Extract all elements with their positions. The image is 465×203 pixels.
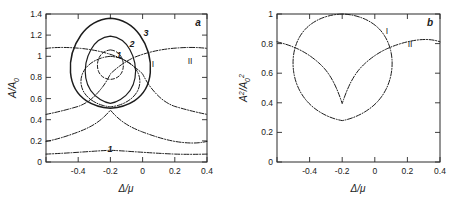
panel-b-xtick-1: -0.2 [335,166,350,176]
panel-a-curve-loop2 [85,36,135,103]
svg-text:A2/A02: A2/A02 [238,74,251,103]
panel-a-x-ticks [46,14,207,162]
panel-b-ylabel-sub: 0 [244,78,251,82]
panel-a-label-branch-I: I [152,59,154,69]
panel-a-svg: 0 0.2 0.4 0.6 0.8 1 1.2 1.4 -0.4 -0.2 0 … [0,0,232,203]
panel-b-y-tick-labels: 0 0.2 0.4 0.6 0.8 1 [261,9,273,167]
panel-a-letter: a [195,17,201,28]
panel-b-axes-frame [277,14,440,162]
panel-a-ytick-0: 0 [37,157,42,167]
panel-a-x-tick-labels: -0.4 -0.2 0 0.2 0.4 [71,166,213,176]
panel-a-xtick-1: -0.2 [103,166,118,176]
panel-a: 0 0.2 0.4 0.6 0.8 1 1.2 1.4 -0.4 -0.2 0 … [0,0,232,203]
panel-a-x-axis-title: Δ/μ [118,183,134,194]
panel-b-letter: b [427,17,433,28]
panel-a-y-axis-title: A/A0 [7,78,20,99]
panel-a-xtick-4: 0.4 [201,166,213,176]
panel-a-xtick-2: 0 [140,166,145,176]
panel-b-svg: 0 0.2 0.4 0.6 0.8 1 -0.4 -0.2 0 0.2 0.4 … [232,0,465,203]
panel-a-y-ticks [46,14,207,162]
panel-b-ytick-3: 0.6 [261,68,273,78]
panel-a-ytick-1: 0.2 [30,136,42,146]
figure-container: 0 0.2 0.4 0.6 0.8 1 1.2 1.4 -0.4 -0.2 0 … [0,0,465,203]
svg-text:A/A0: A/A0 [7,78,20,99]
panel-a-ylabel-sub: 0 [13,78,20,82]
panel-b: 0 0.2 0.4 0.6 0.8 1 -0.4 -0.2 0 0.2 0.4 … [232,0,465,203]
panel-b-label-II: II [408,39,413,49]
panel-a-xtick-3: 0.2 [169,166,181,176]
panel-b-ytick-1: 0.2 [261,127,273,137]
panel-b-y-axis-title: A2/A02 [238,74,251,103]
panel-a-ytick-7: 1.4 [30,9,42,19]
panel-b-ylabel-den-sup: 2 [238,74,245,79]
panel-b-label-I: I [386,26,388,36]
panel-a-ytick-6: 1.2 [30,30,42,40]
panel-b-xtick-0: -0.4 [302,166,317,176]
panel-a-curve-lower-arch [46,110,207,143]
panel-b-x-axis-title: Δ/μ [350,183,366,194]
panel-b-curve-I [293,14,392,121]
panel-a-axes-frame [46,14,207,162]
panel-b-xtick-4: 0.4 [434,166,446,176]
panel-b-x-tick-labels: -0.4 -0.2 0 0.2 0.4 [302,166,446,176]
panel-b-x-ticks [277,14,440,162]
panel-a-xtick-0: -0.4 [71,166,86,176]
panel-a-curve-loop3 [70,18,150,108]
panel-b-ytick-5: 1 [268,9,273,19]
panel-b-ytick-2: 0.4 [261,98,273,108]
panel-b-xtick-3: 0.2 [401,166,413,176]
panel-a-ytick-2: 0.4 [30,115,42,125]
panel-a-label-flat1: 1 [107,144,112,154]
panel-a-ytick-3: 0.6 [30,94,42,104]
panel-a-ytick-4: 0.8 [30,72,42,82]
panel-a-label-loop1: 1 [116,50,121,60]
panel-b-ytick-0: 0 [268,157,273,167]
panel-b-y-ticks [277,14,440,162]
panel-a-label-branch-II: II [188,56,193,66]
panel-a-ytick-5: 1 [37,51,42,61]
panel-b-ytick-4: 0.8 [261,39,273,49]
panel-a-label-loop3: 3 [143,28,148,38]
panel-a-curve-flat1 [46,150,207,154]
panel-b-xtick-2: 0 [372,166,377,176]
panel-a-label-loop2: 2 [128,39,134,49]
panel-a-y-tick-labels: 0 0.2 0.4 0.6 0.8 1 1.2 1.4 [30,9,42,167]
panel-a-curve-branch-I [81,56,140,107]
